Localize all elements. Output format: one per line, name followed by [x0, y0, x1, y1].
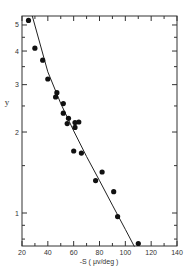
data-point — [26, 18, 31, 23]
y-tick-label: 3 — [15, 81, 19, 88]
y-axis-label: y — [5, 97, 10, 107]
data-point — [61, 101, 66, 106]
x-tick-label: 80 — [96, 249, 104, 256]
x-tick-labels: 20406080100120140 — [18, 249, 183, 256]
data-point — [93, 178, 98, 183]
chart: 20406080100120140 12345 -S ( μv/deg ) y — [0, 0, 191, 273]
data-point — [65, 121, 70, 126]
x-tick-label: 40 — [44, 249, 52, 256]
x-tick-label: 120 — [145, 249, 157, 256]
y-tick-label: 2 — [15, 129, 19, 136]
data-point — [111, 189, 116, 194]
data-point — [72, 125, 77, 130]
x-tick-label: 100 — [119, 249, 131, 256]
y-tick-label: 5 — [15, 21, 19, 28]
data-point — [45, 76, 50, 81]
y-axis-ticks — [22, 25, 177, 239]
data-points — [26, 18, 141, 246]
x-axis-ticks — [22, 16, 177, 246]
data-point — [71, 148, 76, 153]
y-tick-labels: 12345 — [15, 21, 19, 216]
data-point — [79, 151, 84, 156]
data-point — [61, 111, 66, 116]
data-point — [100, 169, 105, 174]
data-point — [115, 214, 120, 219]
plot-frame — [22, 16, 177, 246]
x-axis-label: -S ( μv/deg ) — [80, 258, 119, 266]
data-point — [54, 90, 59, 95]
y-tick-label: 1 — [15, 210, 19, 217]
data-point — [66, 116, 71, 121]
data-point — [136, 241, 141, 246]
x-tick-label: 140 — [171, 249, 183, 256]
data-point — [32, 46, 37, 51]
x-tick-label: 60 — [70, 249, 78, 256]
y-tick-label: 4 — [15, 48, 19, 55]
data-point — [40, 58, 45, 63]
data-point — [76, 119, 81, 124]
x-tick-label: 20 — [18, 249, 26, 256]
fit-curve — [32, 16, 134, 247]
